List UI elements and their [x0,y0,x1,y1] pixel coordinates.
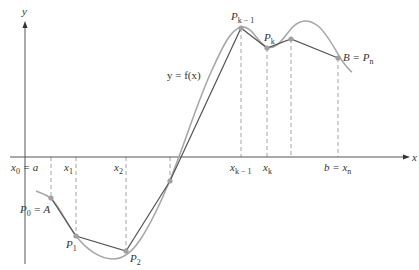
vertex-pk-1 [238,25,243,30]
vertex-pk [264,45,269,50]
polygonal-path [51,28,338,251]
dashed-guides [51,28,338,251]
curve-label: y = f(x) [167,69,201,82]
y-axis-arrow-icon [23,21,28,28]
vertex-mid [167,178,172,183]
tick-label-xk: xk [262,161,272,176]
polygonal-path-figure: y x y = f(x) x0 = a x1 x2 xk − 1 xk b = … [0,0,419,270]
function-curve [36,21,352,259]
point-label-pn: B = Pn [343,51,373,66]
vertices [48,25,340,253]
point-label-p1: P1 [65,238,77,253]
tick-label-x1: x1 [63,161,73,176]
vertex-p2 [123,248,128,253]
vertex-pn [335,55,340,60]
vertex-after-pk [288,36,293,41]
tick-label-xk-1: xk − 1 [229,161,251,176]
x-axis-arrow-icon [403,155,410,160]
point-label-pk-1: Pk − 1 [230,10,254,25]
x-axis-label: x [411,151,417,163]
vertex-p0 [48,195,53,200]
vertex-p1 [73,233,78,238]
y-axis-label: y [21,5,27,17]
tick-label-x2: x2 [113,161,123,176]
tick-label-xn: b = xn [324,161,351,176]
point-label-p2: P2 [129,252,141,267]
point-label-p0: P0 = A [19,203,50,218]
point-label-pk: Pk [263,31,275,46]
tick-label-x0: x0 = a [10,161,39,176]
